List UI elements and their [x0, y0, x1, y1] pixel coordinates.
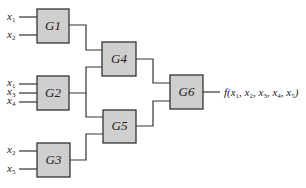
- svg-text:G6: G6: [179, 84, 195, 99]
- input-label-g1-1: x1: [6, 10, 16, 24]
- gate-g2: G2: [37, 76, 69, 110]
- gate-g3: G3: [37, 143, 70, 177]
- svg-text:G4: G4: [111, 51, 127, 66]
- gate-g1: G1: [37, 9, 69, 43]
- input-label-g1-2: x2: [6, 28, 16, 42]
- svg-text:G2: G2: [45, 85, 61, 100]
- input-labels: x1 x2 x1 x3 x4 x2 x5: [6, 10, 16, 176]
- input-label-g3-1: x2: [6, 143, 16, 157]
- svg-text:G3: G3: [46, 152, 62, 167]
- input-wires: [19, 17, 37, 169]
- gate-g5: G5: [103, 110, 136, 143]
- input-label-g3-2: x5: [6, 162, 16, 176]
- svg-text:G1: G1: [45, 18, 61, 33]
- svg-text:G5: G5: [112, 118, 128, 133]
- output-label: f(x1, x2, x3, x4, x5): [224, 86, 299, 100]
- circuit-diagram: G1 G2 G3 G4 G5 G6 x1 x2 x1 x3 x4 x2 x5 f…: [0, 0, 306, 188]
- gate-g4: G4: [102, 42, 136, 76]
- gate-g6: G6: [170, 75, 203, 109]
